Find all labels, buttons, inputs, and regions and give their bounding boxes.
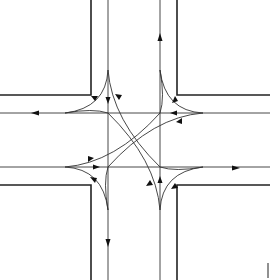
turn-north-to-east	[108, 70, 203, 170]
curb-northwest	[0, 0, 91, 95]
intersection-diagram	[0, 0, 270, 280]
arrow-down-icon	[106, 97, 111, 104]
turn-south-to-west	[65, 111, 160, 211]
curb-southwest	[0, 185, 91, 280]
arrow-right-icon	[93, 165, 100, 170]
direction-arrows	[31, 33, 240, 247]
arrow-turn-icon	[146, 180, 153, 186]
arrow-up-icon	[158, 176, 163, 183]
arrow-left-icon	[31, 111, 39, 116]
arrow-turn-icon	[115, 94, 122, 100]
arrow-left-icon	[170, 111, 177, 116]
arrow-turn-icon	[176, 118, 182, 124]
arrow-up-icon	[158, 33, 163, 41]
through-lanes	[0, 0, 270, 280]
arrow-down-icon	[106, 239, 111, 247]
curbs	[0, 0, 270, 280]
turn-east-to-north	[160, 70, 203, 113]
intersection-svg	[0, 0, 270, 280]
turn-paths	[65, 70, 203, 210]
arrow-turn-icon	[172, 96, 178, 103]
arrow-right-icon	[232, 166, 240, 171]
turn-west-to-south	[65, 167, 108, 210]
arrow-turn-icon	[90, 177, 97, 183]
curb-northeast	[177, 0, 270, 95]
turn-north-to-west	[65, 70, 108, 113]
curb-southeast	[177, 185, 270, 280]
turn-south-to-east	[160, 167, 203, 210]
